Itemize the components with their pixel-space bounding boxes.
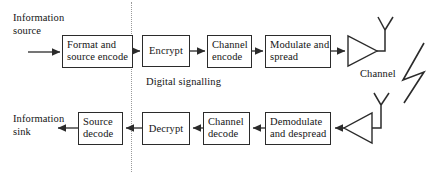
tx-amplifier-icon xyxy=(348,36,377,66)
diagram-canvas: Information source Format and source enc… xyxy=(0,0,438,174)
tx-antenna-icon xyxy=(377,17,393,51)
rx-antenna-icon xyxy=(372,93,389,128)
propagation-lightning-icon xyxy=(403,43,424,103)
connector-overlay xyxy=(0,0,438,174)
rx-amplifier-icon xyxy=(344,113,372,143)
